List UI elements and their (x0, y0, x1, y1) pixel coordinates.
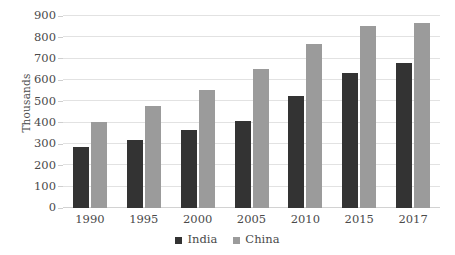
bar-group (225, 16, 279, 208)
y-axis-tick: 300 (34, 137, 63, 151)
y-axis-tick-label: 500 (34, 96, 56, 108)
y-axis-tick-label: 400 (34, 117, 56, 129)
bar-china-2015[interactable] (360, 26, 376, 208)
y-axis-tick-label: 300 (34, 138, 56, 150)
y-axis-tick-labels: 0100200300400500600700800900 (0, 16, 63, 208)
y-axis-tick: 500 (34, 94, 63, 108)
y-axis-tick-label: 100 (34, 181, 56, 193)
bar-china-2005[interactable] (253, 69, 269, 208)
chart-legend: IndiaChina (0, 231, 455, 249)
y-axis-tick: 800 (34, 30, 63, 44)
x-axis-tick-label: 1990 (63, 210, 117, 228)
bar-india-2015[interactable] (342, 73, 358, 208)
legend-item-india[interactable]: India (175, 234, 217, 246)
bar-china-1990[interactable] (91, 122, 107, 208)
bar-group (63, 16, 117, 208)
y-axis-tick: 600 (34, 73, 63, 87)
bar-group (117, 16, 171, 208)
legend-swatch-icon (175, 237, 182, 244)
y-axis-tick: 200 (34, 158, 63, 172)
y-axis-tick-label: 700 (34, 53, 56, 65)
y-axis-tick: 100 (34, 180, 63, 194)
bar-china-1995[interactable] (145, 106, 161, 208)
bar-china-2017[interactable] (414, 23, 430, 208)
y-axis-tick-label: 900 (34, 10, 56, 22)
bar-china-2000[interactable] (199, 90, 215, 208)
bar-india-2000[interactable] (181, 130, 197, 208)
x-axis-tick-labels: 1990199520002005201020152017 (63, 210, 440, 228)
bar-group (171, 16, 225, 208)
x-axis-tick-label: 1995 (117, 210, 171, 228)
legend-item-china[interactable]: China (233, 234, 279, 246)
bar-groups (63, 16, 440, 208)
y-axis-tick: 900 (34, 9, 63, 23)
bar-india-1990[interactable] (73, 147, 89, 208)
y-axis-tick-label: 800 (34, 32, 56, 44)
x-axis-tick-label: 2015 (332, 210, 386, 228)
bar-chart: Thousands 0100200300400500600700800900 1… (0, 0, 455, 255)
legend-label: India (187, 234, 217, 246)
x-axis-tick-label: 2005 (225, 210, 279, 228)
legend-swatch-icon (233, 237, 240, 244)
bar-china-2010[interactable] (306, 44, 322, 208)
x-axis-tick-label: 2000 (171, 210, 225, 228)
x-axis-tick-label: 2017 (386, 210, 440, 228)
bar-group (278, 16, 332, 208)
bar-group (386, 16, 440, 208)
bar-india-1995[interactable] (127, 140, 143, 208)
y-axis-tick-label: 0 (49, 202, 56, 214)
y-axis-tick: 700 (34, 52, 63, 66)
bar-group (332, 16, 386, 208)
legend-label: China (245, 234, 279, 246)
x-axis-tick-label: 2010 (278, 210, 332, 228)
y-axis-tick: 400 (34, 116, 63, 130)
y-axis-tick: 0 (49, 201, 63, 215)
bar-india-2005[interactable] (235, 121, 251, 208)
bar-india-2017[interactable] (396, 63, 412, 208)
plot-area (63, 16, 440, 208)
y-axis-tick-label: 200 (34, 160, 56, 172)
bar-india-2010[interactable] (288, 96, 304, 208)
y-axis-tick-label: 600 (34, 74, 56, 86)
